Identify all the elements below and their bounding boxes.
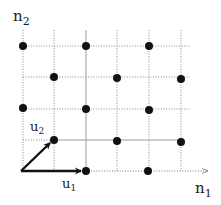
lattice-diagram: n2 n1 u2 u1 — [0, 0, 221, 205]
u1-label: u1 — [62, 176, 76, 193]
lattice-point — [144, 167, 152, 175]
n2-axis-label: n2 — [13, 7, 30, 28]
lattice-point — [50, 73, 58, 81]
lattice-point — [145, 42, 153, 50]
grid-vertical-lines — [23, 30, 181, 171]
grid-horizontal-lines — [23, 46, 190, 140]
vector-u2-arrow — [21, 143, 50, 171]
lattice-point — [82, 105, 90, 113]
lattice-point — [145, 106, 153, 114]
lattice-point — [19, 104, 27, 112]
lattice-point — [177, 138, 185, 146]
lattice-point — [113, 137, 121, 145]
lattice-point — [50, 136, 58, 144]
n1-axis-label: n1 — [195, 179, 212, 200]
u2-label: u2 — [30, 119, 44, 136]
lattice-point — [113, 74, 121, 82]
lattice-point — [177, 75, 185, 83]
lattice-point — [82, 42, 90, 50]
lattice-point — [82, 167, 90, 175]
lattice-point — [19, 42, 27, 50]
